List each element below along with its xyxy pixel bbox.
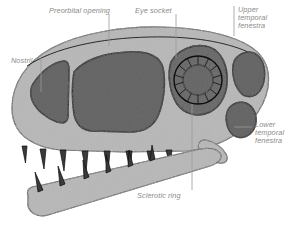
lower-temporal-fenestra [226, 102, 256, 137]
upper-temporal-fenestra [233, 52, 265, 97]
label-sclerotic-ring: Sclerotic ring [137, 192, 181, 200]
label-lower-temporal-fenestra-line3: fenestra [255, 137, 282, 145]
eye-socket [169, 46, 227, 115]
label-nostril: Nostril [11, 57, 32, 65]
label-upper-temporal-fenestra-line3: fenestra [238, 22, 265, 30]
preorbital-opening [73, 52, 165, 132]
label-eye-socket: Eye socket [135, 7, 172, 15]
label-preorbital-opening: Preorbital opening [49, 7, 110, 15]
